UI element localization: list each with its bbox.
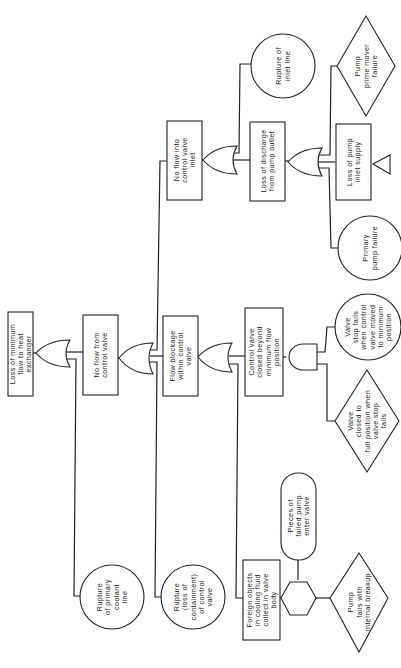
- label-line: valve: [205, 588, 214, 607]
- or-gate-2: [119, 343, 153, 374]
- rupture-inlet-label: Rupture ofinlet line: [274, 47, 291, 85]
- label-line: inlet supply: [353, 142, 362, 183]
- label-line: body: [269, 591, 278, 608]
- no-flow-cv-label: No flow fromcontrol valve: [92, 332, 109, 378]
- inhibit-gate-hexagon: [281, 582, 316, 615]
- loss-inlet-supply-label: Loss of pumpinlet supply: [345, 138, 362, 186]
- label-line: enter valve: [302, 496, 311, 536]
- or-gate-4: [288, 148, 322, 176]
- label-line: control valve: [100, 332, 109, 378]
- label-line: position: [272, 338, 281, 366]
- label-line: position: [384, 313, 393, 341]
- label-line: fails: [379, 414, 388, 429]
- or-gate-5: [198, 343, 232, 372]
- pieces-pump-label: Pieces offailed pumpenter valve: [286, 495, 311, 537]
- label-line: from pump outlet: [267, 131, 276, 191]
- label-line: inlet line: [283, 51, 292, 81]
- or-gate-1: [36, 340, 70, 367]
- and-gate: [289, 344, 317, 370]
- fault-tree-diagram: Loss of minimumflow to heatexchangerNo f…: [0, 0, 401, 668]
- label-line: inlet: [188, 152, 197, 167]
- or-gate-3: [203, 146, 237, 174]
- label-line: exchanger: [24, 335, 33, 372]
- label-line: valve: [184, 347, 193, 366]
- label-line: line: [120, 591, 129, 604]
- label-line: failure: [370, 55, 379, 77]
- loss-discharge-label: Loss of dischargefrom pump outlet: [259, 129, 276, 192]
- transfer-triangle: [373, 155, 390, 174]
- label-line: internal breakup: [363, 573, 372, 631]
- label-line: pump failure: [370, 226, 379, 270]
